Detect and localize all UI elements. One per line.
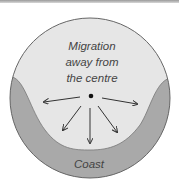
migration-diagram: Migration away from the centre Coast [0, 0, 179, 189]
label-coast: Coast [74, 158, 105, 170]
centre-dot [89, 94, 94, 99]
label-migration-1: Migration [68, 40, 115, 52]
diagram-canvas: Migration away from the centre Coast [0, 0, 179, 189]
label-migration-2: away from [65, 56, 118, 68]
label-migration-3: the centre [66, 72, 117, 84]
